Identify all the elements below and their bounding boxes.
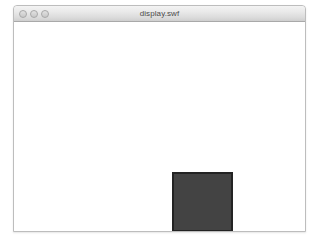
minimize-button-icon[interactable]	[30, 10, 38, 18]
window-controls	[19, 10, 49, 18]
flash-stage[interactable]	[14, 22, 305, 231]
desktop-background: display.swf	[0, 0, 319, 244]
close-button-icon[interactable]	[19, 10, 27, 18]
application-window[interactable]: display.swf	[13, 5, 306, 232]
zoom-button-icon[interactable]	[41, 10, 49, 18]
gray-square-shape[interactable]	[172, 172, 233, 232]
window-titlebar[interactable]: display.swf	[14, 6, 305, 22]
window-title: display.swf	[14, 6, 305, 22]
